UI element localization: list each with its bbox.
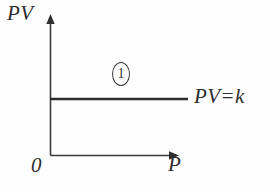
y-axis-arrowhead (46, 14, 54, 24)
x-axis-label: P (168, 154, 181, 175)
curve-number-marker: 1 (112, 62, 130, 86)
curve-number-text: 1 (112, 62, 130, 86)
pv-diagram-figure: PV P 0 PV=k 1 (0, 0, 278, 186)
equation-lhs: PV (194, 84, 221, 108)
equation-operator: = (221, 84, 235, 108)
curve-equation-label: PV=k (194, 86, 245, 107)
equation-rhs: k (235, 84, 245, 108)
origin-label: 0 (31, 155, 42, 176)
y-axis-label: PV (7, 3, 34, 24)
